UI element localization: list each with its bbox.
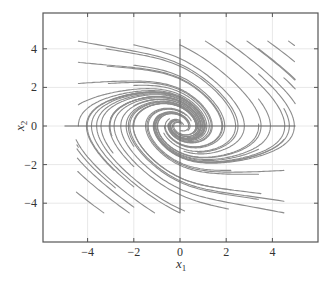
y-tick-label: 2	[31, 80, 37, 94]
x-axis-label-sub: 1	[182, 263, 187, 273]
x-tick-label: −2	[127, 245, 140, 259]
x-tick-label: 2	[223, 245, 229, 259]
x-tick-label: 4	[269, 245, 275, 259]
streamline	[247, 41, 295, 80]
y-tick-label: 0	[31, 119, 37, 133]
y-tick-label: −4	[24, 196, 37, 210]
y-axis-label-sub: 2	[19, 121, 29, 126]
streamline	[289, 41, 295, 45]
reference-axes	[65, 39, 296, 213]
streamline	[77, 145, 79, 147]
y-tick-label: −2	[24, 158, 37, 172]
x-axis-label: x1	[175, 256, 186, 273]
x-tick-label: −4	[81, 245, 94, 259]
streamline	[76, 192, 103, 213]
y-tick-label: 4	[31, 42, 37, 56]
y-axis-label: x2	[12, 121, 29, 132]
streamlines	[76, 41, 295, 213]
phase-portrait-chart: −4−2024 −4−2024 x1 x2	[0, 0, 334, 284]
